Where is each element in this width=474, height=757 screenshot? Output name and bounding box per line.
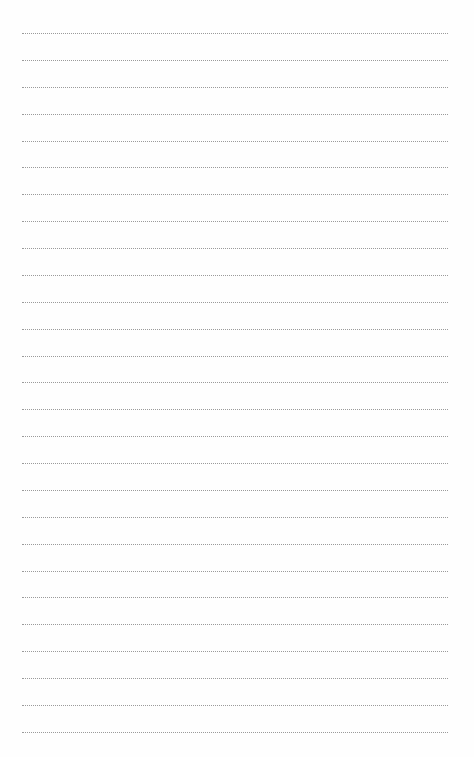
ruled-line — [22, 705, 448, 706]
ruled-line — [22, 114, 448, 115]
ruled-line — [22, 275, 448, 276]
ruled-line — [22, 248, 448, 249]
ruled-line — [22, 329, 448, 330]
ruled-line — [22, 194, 448, 195]
ruled-line — [22, 517, 448, 518]
ruled-line — [22, 409, 448, 410]
ruled-line — [22, 302, 448, 303]
ruled-line — [22, 651, 448, 652]
ruled-line — [22, 436, 448, 437]
ruled-line — [22, 356, 448, 357]
ruled-line — [22, 571, 448, 572]
ruled-line — [22, 382, 448, 383]
ruled-line — [22, 221, 448, 222]
ruled-line — [22, 624, 448, 625]
ruled-line — [22, 463, 448, 464]
ruled-line — [22, 678, 448, 679]
ruled-line — [22, 141, 448, 142]
ruled-line — [22, 544, 448, 545]
ruled-line — [22, 60, 448, 61]
ruled-line — [22, 87, 448, 88]
ruled-line — [22, 732, 448, 733]
lined-notepaper-page — [0, 0, 474, 757]
ruled-line — [22, 33, 448, 34]
ruled-line — [22, 597, 448, 598]
ruled-line — [22, 490, 448, 491]
ruled-line — [22, 167, 448, 168]
